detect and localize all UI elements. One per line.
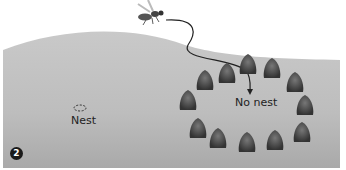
step-number-badge: 2	[10, 147, 23, 160]
nest-label: Nest	[71, 114, 96, 127]
ground-hill	[3, 32, 340, 168]
wasp-icon	[138, 0, 164, 25]
no-nest-label: No nest	[235, 96, 277, 109]
scene	[0, 0, 346, 170]
diagram: Nest No nest 2	[0, 0, 346, 170]
